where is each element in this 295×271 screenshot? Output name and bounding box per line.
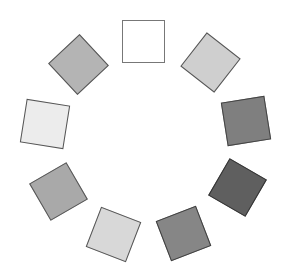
square-bottom [85,206,141,262]
square-bottom-right [208,158,267,217]
square-top [122,20,165,63]
square-left [20,99,70,149]
square-top-left [48,34,109,95]
square-circle-figure [0,0,295,271]
square-top-right [180,32,240,92]
square-right [221,96,271,146]
square-bottom-right-lower [155,205,211,261]
square-bottom-left [29,162,88,221]
